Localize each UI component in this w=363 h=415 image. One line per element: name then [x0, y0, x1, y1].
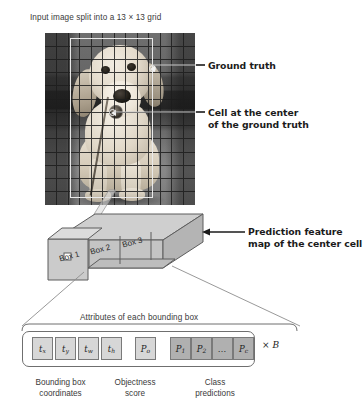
callout-cell-center-line1: Cell at the center: [208, 107, 309, 119]
attr-cell-tw: tw: [78, 337, 99, 360]
group-caption-class: Class predictions: [175, 377, 255, 399]
attributes-strip: tx ty tw th Po P1 P2 … Pc: [22, 331, 255, 367]
attr-cell-ellipsis: …: [212, 337, 233, 360]
callout-prediction-feature-map: Prediction feature map of the center cel…: [248, 226, 362, 249]
attr-cell-pc-sym: P: [239, 344, 245, 354]
attr-cell-p2: P2: [191, 337, 212, 360]
attr-cell-ellipsis-sym: …: [218, 344, 228, 354]
fmap-bottom-face: [88, 259, 175, 268]
prediction-feature-map-leader: [202, 229, 245, 236]
attr-cell-ty-sym: t: [62, 344, 65, 354]
group-caption-bbox-line2: coordinates: [18, 388, 103, 399]
group-caption-class-line2: predictions: [175, 388, 255, 399]
attributes-multiplier-var: B: [272, 340, 279, 350]
callout-prediction-line2: map of the center cell: [248, 238, 362, 250]
attr-cell-po: Po: [135, 337, 156, 360]
attr-cell-th: th: [101, 337, 122, 360]
attr-cell-pc: Pc: [233, 337, 254, 360]
attributes-multiplier-symbol: ×: [262, 340, 270, 350]
figure-canvas: Input image split into a 13 × 13 grid: [0, 0, 363, 415]
attr-cell-tx-sym: t: [39, 344, 42, 354]
attr-cell-p1: P1: [170, 337, 191, 360]
attributes-multiplier: × B: [262, 340, 279, 350]
group-caption-class-line1: Class: [175, 377, 255, 388]
group-caption-bbox-line1: Bounding box: [18, 377, 103, 388]
attribute-bracket: [22, 324, 297, 331]
group-caption-objectness-line1: Objectness: [100, 377, 170, 388]
group-caption-objectness-line2: score: [100, 388, 170, 399]
attr-cell-po-sym: P: [141, 344, 147, 354]
attributes-caption: Attributes of each bounding box: [80, 313, 198, 322]
group-caption-objectness: Objectness score: [100, 377, 170, 399]
callout-ground-truth: Ground truth: [208, 60, 276, 72]
callout-cell-center-line2: of the ground truth: [208, 119, 309, 131]
attr-cell-tx: tx: [32, 337, 53, 360]
attr-cell-ty: ty: [55, 337, 76, 360]
group-caption-bounding-box: Bounding box coordinates: [18, 377, 103, 399]
callout-prediction-line1: Prediction feature: [248, 226, 362, 238]
callout-cell-center: Cell at the center of the ground truth: [208, 107, 309, 130]
